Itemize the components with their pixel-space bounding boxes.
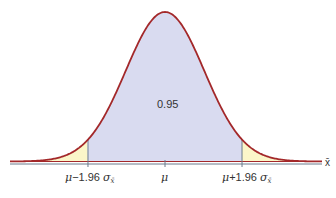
x-axis-label: x̄: [325, 157, 330, 168]
tick-label-lower: μ−1.96 σx̄: [65, 171, 115, 185]
tick-label-mean: μ: [161, 171, 168, 184]
central-area-label: 0.95: [157, 98, 178, 110]
left-tail-area: [10, 141, 88, 162]
tick-label-upper: μ+1.96 σx̄: [222, 171, 272, 185]
central-area: [88, 12, 242, 162]
